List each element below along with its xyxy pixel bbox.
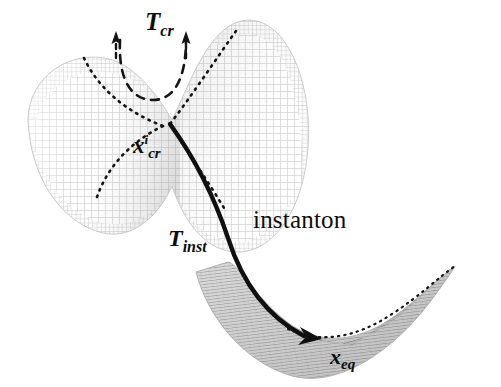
instanton-saddle-figure: Tcr xicr Tinst instanton xeq — [0, 0, 501, 387]
t-cr-arrow-right — [182, 31, 191, 58]
label-x-eq-sub: eq — [341, 356, 355, 372]
label-t-inst: Tinst — [168, 225, 207, 256]
label-t-inst-base: T — [168, 225, 183, 251]
label-instanton: instanton — [253, 206, 346, 234]
label-t-cr-sub: cr — [160, 22, 173, 39]
label-x-eq-base: x — [330, 344, 341, 369]
label-x-cr: xicr — [133, 132, 161, 162]
figure-canvas — [0, 0, 501, 387]
label-x-cr-sub: cr — [148, 145, 161, 161]
label-t-inst-sub: inst — [183, 238, 207, 255]
label-t-cr-base: T — [145, 8, 160, 35]
label-x-cr-base: x — [133, 133, 145, 158]
label-x-eq: xeq — [330, 344, 355, 373]
label-t-cr: Tcr — [145, 8, 174, 40]
